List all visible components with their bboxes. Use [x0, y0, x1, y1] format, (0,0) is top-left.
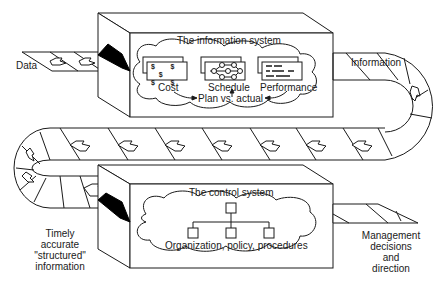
information-system-title: The information system — [177, 35, 281, 46]
schedule-label: Schedule — [208, 82, 250, 93]
information-output-label: Information — [351, 57, 401, 68]
management-output-tape — [333, 204, 418, 223]
control-system-caption: Organization, policy, procedures — [165, 240, 308, 251]
handwritten-document-icon — [258, 57, 302, 80]
timely-info-label: Timely accurate "structured" information — [28, 228, 92, 272]
network-diagram-icon — [201, 57, 245, 80]
control-system-title: The control system — [189, 187, 273, 198]
dollar-glyphs: $ $ $$ $ — [151, 63, 174, 87]
management-decisions-label: Management decisions and direction — [355, 230, 427, 274]
plan-vs-actual-label: Plan vs. actual — [198, 93, 263, 104]
performance-label: Performance — [260, 82, 317, 93]
diagram-canvas: Data The information system Cost Schedul… — [0, 0, 442, 283]
data-label: Data — [16, 60, 37, 71]
